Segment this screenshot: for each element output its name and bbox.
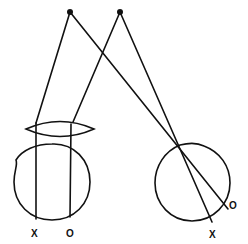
left-eye-ray-from-left-point bbox=[36, 12, 70, 123]
right-eye: X O bbox=[70, 12, 237, 240]
left-eye-x-label: X bbox=[31, 228, 38, 239]
right-eye-ray-from-right-point bbox=[120, 12, 212, 222]
right-eye-ray-from-left-point bbox=[70, 12, 228, 209]
left-eye-o-label: O bbox=[66, 228, 74, 239]
left-eye-internal-ray-o bbox=[70, 124, 71, 217]
eye-optics-diagram: X O X O bbox=[0, 0, 248, 244]
left-eye-ray-from-right-point bbox=[73, 12, 120, 122]
right-eye-x-label: X bbox=[209, 229, 216, 240]
right-eyeball bbox=[155, 143, 230, 221]
left-eyeball bbox=[14, 144, 90, 220]
right-eye-o-label: O bbox=[229, 200, 237, 211]
left-eye: X O bbox=[14, 12, 120, 239]
